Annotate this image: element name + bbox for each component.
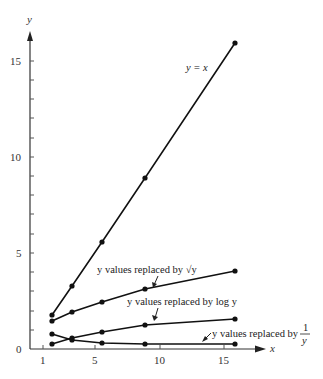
y-tick-10: 10: [10, 151, 22, 163]
annotation-y-equals-x: y = x: [185, 62, 208, 73]
chart: y x 0 5 10 15 1 5 10 15: [0, 0, 323, 379]
x-tick-10: 10: [154, 354, 166, 366]
y-axis-arrow-icon: [27, 31, 33, 41]
arrow-log-icon: [152, 308, 158, 321]
annotation-sqrt: y values replaced by √y: [97, 264, 197, 275]
annotation-reciprocal-denominator: y: [301, 335, 307, 346]
annotation-reciprocal: y values replaced by: [212, 328, 299, 339]
x-tick-15: 15: [218, 354, 230, 366]
y-axis-label: y: [26, 13, 32, 25]
series-reciprocal-y: [49, 331, 237, 346]
y-tick-15: 15: [10, 55, 22, 67]
x-axis-arrow-icon: [255, 346, 266, 353]
y-tick-5: 5: [16, 247, 22, 259]
x-tick-5: 5: [92, 354, 98, 366]
x-axis-label: x: [269, 342, 275, 354]
y-tick-0: 0: [16, 343, 22, 355]
annotation-log: y values replaced by log y: [127, 296, 238, 307]
x-tick-1: 1: [40, 354, 46, 366]
annotation-reciprocal-numerator: 1: [303, 322, 308, 333]
arrow-reciprocal-icon: [202, 333, 211, 342]
